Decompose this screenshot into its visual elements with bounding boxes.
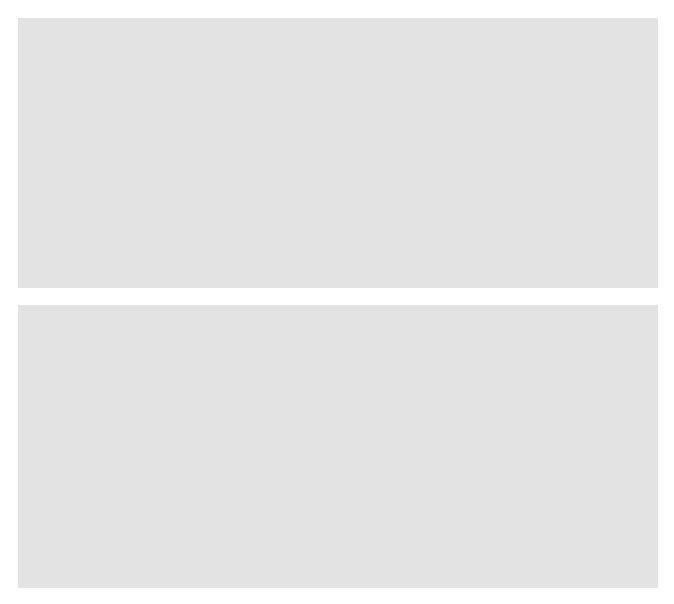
top-chart-svg bbox=[18, 18, 658, 288]
bottom-chart-panel bbox=[18, 305, 658, 588]
bottom-chart-svg bbox=[18, 305, 658, 588]
top-chart-panel bbox=[18, 18, 658, 288]
figure-root bbox=[0, 0, 674, 604]
